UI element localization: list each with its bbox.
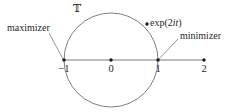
figure-canvas: 𝕋 −1 0 1 2 maximizer minimizer exp(2it)	[0, 0, 240, 112]
point-exp-2it	[145, 22, 148, 25]
maximizer-leader-line	[49, 33, 63, 59]
exp-label-prefix: exp(2	[150, 17, 173, 28]
axis-tick-label-two: 2	[201, 64, 206, 75]
point-two	[202, 58, 205, 61]
axis-tick-label-one: 1	[155, 64, 160, 75]
figure-vector-layer	[0, 0, 240, 112]
exp-label-suffix: )	[178, 17, 181, 28]
minimizer-leader-line	[159, 39, 178, 59]
axis-tick-label-minus-one: −1	[58, 64, 69, 75]
point-minus-one	[62, 58, 65, 61]
point-one	[156, 58, 159, 61]
maximizer-annotation-label: maximizer	[7, 23, 50, 33]
point-zero	[109, 58, 112, 61]
minimizer-annotation-label: minimizer	[180, 31, 221, 41]
axis-tick-label-zero: 0	[108, 64, 113, 75]
exp-2it-point-label: exp(2it)	[150, 18, 182, 28]
unit-circle-symbol-label: 𝕋	[73, 3, 81, 14]
